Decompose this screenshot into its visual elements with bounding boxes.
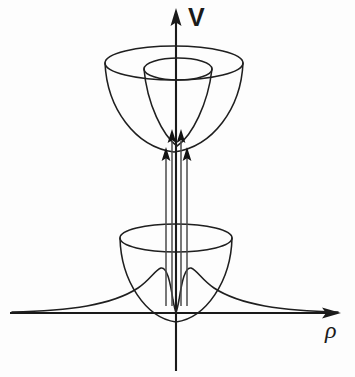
potential-energy-figure: V ρ	[0, 0, 355, 377]
energy-axis-label: V	[188, 5, 205, 30]
transition-inner-right-arrowhead	[177, 129, 186, 143]
coordinate-axis-label: ρ	[325, 318, 337, 342]
figure-canvas	[0, 0, 355, 377]
axes-group	[10, 8, 341, 371]
upper-outer-rim-ellipse	[105, 46, 243, 80]
upper-inner-rim-ellipse	[144, 58, 212, 80]
